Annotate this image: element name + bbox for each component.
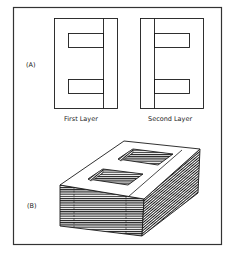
- panel-b-label: (B): [27, 202, 37, 210]
- panel-a: (A) First Layer Second Layer: [26, 19, 204, 124]
- second-layer-caption: Second Layer: [148, 115, 192, 123]
- panel-b: (B): [27, 141, 200, 236]
- second-layer-lamination: [141, 19, 204, 109]
- first-layer-lamination: [55, 19, 118, 109]
- panel-a-label: (A): [26, 61, 36, 69]
- stacked-core-3d: [60, 141, 200, 236]
- first-layer-caption: First Layer: [64, 115, 98, 123]
- transformer-core-diagram: (A) First Layer Second Layer (B): [0, 0, 229, 253]
